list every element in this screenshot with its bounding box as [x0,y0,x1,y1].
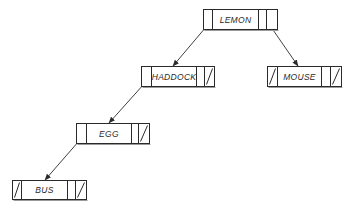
tree-diagram: LEMONHADDOCKMOUSEEGGBUS [0,0,350,209]
tree-nodes: LEMONHADDOCKMOUSEEGGBUS [13,10,343,201]
edge-lemon-to-mouse [271,27,298,66]
edge-lemon-to-haddock [173,27,206,66]
tree-edges [45,27,298,180]
node-label: BUS [35,185,53,195]
node-label: LEMON [220,15,252,25]
edge-haddock-to-egg [109,84,144,123]
tree-node-lemon: LEMON [204,10,279,31]
node-label: MOUSE [283,72,316,82]
tree-node-haddock: HADDOCK [142,67,216,88]
tree-node-mouse: MOUSE [268,67,343,88]
edge-egg-to-bus [45,141,79,180]
node-label: HADDOCK [152,72,197,82]
tree-node-egg: EGG [77,124,151,145]
tree-node-bus: BUS [13,181,88,201]
node-label: EGG [99,129,119,139]
